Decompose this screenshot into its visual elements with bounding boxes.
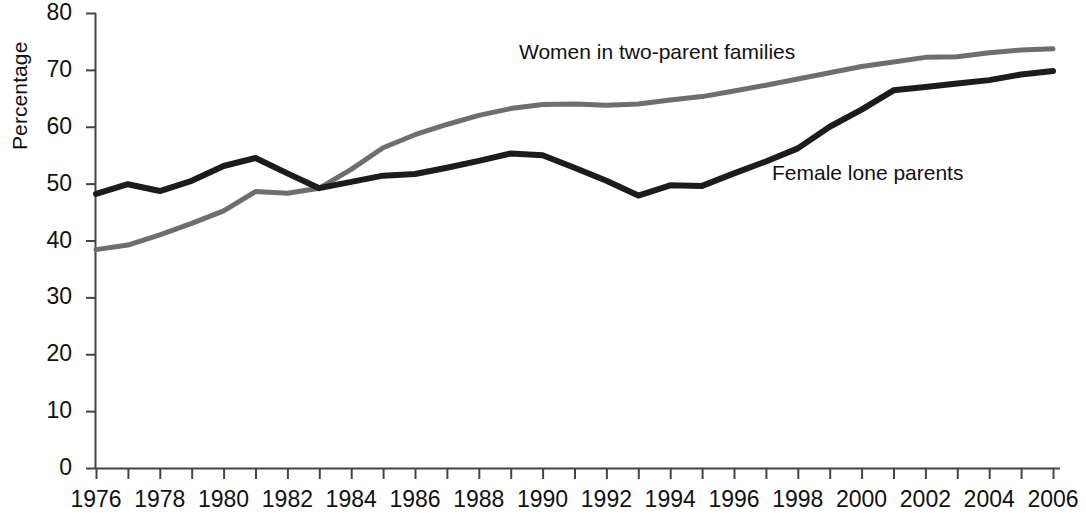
- annotation-women-two-parent-families: Women in two-parent families: [519, 40, 795, 64]
- x-axis-ticks: [97, 468, 1054, 479]
- data-series: [96, 49, 1053, 250]
- series-line: [96, 49, 1053, 250]
- annotation-female-lone-parents: Female lone parents: [772, 161, 963, 185]
- axis-lines: [96, 13, 1061, 469]
- plot-area: [0, 0, 1086, 528]
- line-chart: Percentage 01020304050607080 19761978198…: [0, 0, 1086, 528]
